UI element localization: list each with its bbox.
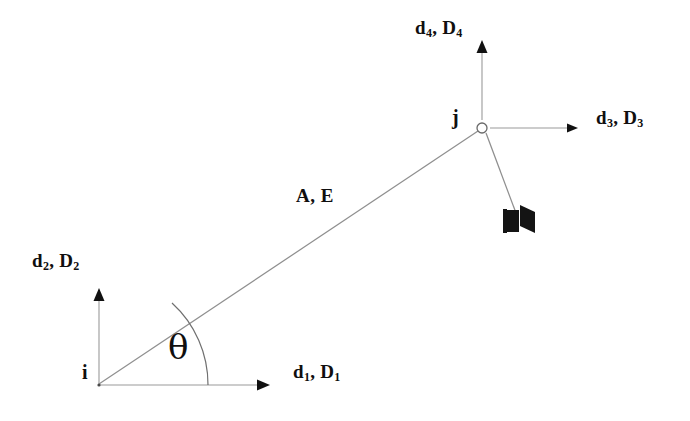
node-label-i: i bbox=[82, 362, 88, 382]
dof-d2-sub2: 2 bbox=[73, 259, 79, 273]
node-marker-i bbox=[97, 383, 100, 386]
member-line-ij bbox=[99, 131, 478, 384]
dof-label-d1: d1, D1 bbox=[293, 362, 341, 383]
dof-d1-sub2: 1 bbox=[334, 370, 340, 384]
dof-d3-D: , D bbox=[613, 107, 637, 128]
member-stub-arrowhead-icon bbox=[503, 205, 535, 233]
dof-d2-D: , D bbox=[49, 250, 73, 271]
dof-label-d3: d3, D3 bbox=[596, 108, 644, 129]
dof-d4-d: d bbox=[415, 17, 426, 38]
dof-d3-sub2: 3 bbox=[637, 116, 643, 130]
dof-d3-d: d bbox=[596, 107, 607, 128]
member-stub-line bbox=[486, 133, 516, 213]
member-property-label: A, E bbox=[296, 186, 334, 205]
dof-label-d4: d4, D4 bbox=[415, 18, 463, 39]
diagram-vector-layer bbox=[0, 0, 690, 421]
dof-d1-D: , D bbox=[310, 361, 334, 382]
dof-label-d2: d2, D2 bbox=[32, 251, 80, 272]
dof-d1-d: d bbox=[293, 361, 304, 382]
angle-label-theta: θ bbox=[168, 330, 188, 364]
dof-d4-D: , D bbox=[432, 17, 456, 38]
dof-d2-d: d bbox=[32, 250, 43, 271]
node-marker-j bbox=[477, 123, 487, 133]
diagram-canvas: d4, D4 d3, D3 d2, D2 d1, D1 i j A, E θ bbox=[0, 0, 690, 421]
dof-d4-sub2: 4 bbox=[456, 26, 462, 40]
node-label-j: j bbox=[452, 107, 459, 127]
